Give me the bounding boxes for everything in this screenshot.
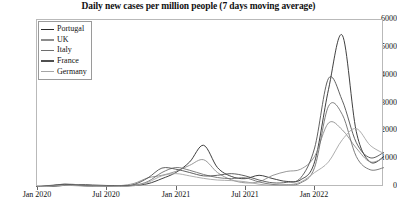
legend-item-uk: UK [41,35,87,46]
legend-swatch-germany [41,71,54,73]
x-tick-label: Jan 2021 [145,191,207,199]
legend-label: France [57,57,79,65]
legend-label: Germany [57,68,87,76]
x-tick-label: Jul 2021 [214,191,276,199]
chart-container: Daily new cases per million people (7 da… [0,0,397,212]
legend-item-portugal: Portugal [41,24,87,35]
x-tick-label: Jul 2020 [75,191,137,199]
series-line-germany [37,128,384,186]
x-tick-label: Jan 2020 [6,191,68,199]
chart-title: Daily new cases per million people (7 da… [0,1,397,11]
legend-swatch-italy [41,50,54,52]
x-tick-label: Jan 2022 [283,191,345,199]
legend-item-france: France [41,56,87,67]
series-line-italy [37,103,384,187]
legend-label: UK [57,36,69,44]
legend-swatch-france [41,60,54,62]
legend-item-italy: Italy [41,45,87,56]
chart-legend: Portugal UK Italy France Germany [38,21,92,80]
legend-swatch-portugal [41,29,54,31]
series-line-france [37,77,384,187]
legend-label: Italy [57,46,72,54]
legend-swatch-uk [41,39,54,41]
legend-label: Portugal [57,25,84,33]
legend-item-germany: Germany [41,66,87,77]
